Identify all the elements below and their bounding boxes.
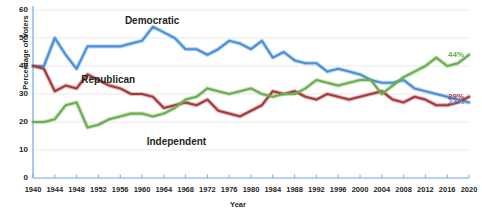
series-label-democratic: Democratic — [125, 15, 179, 26]
end-value-label-democratic: 27% — [448, 97, 464, 106]
y-axis-tick-10: 10 — [4, 145, 28, 154]
y-axis-tick-60: 60 — [4, 5, 28, 14]
y-axis-tick-40: 40 — [4, 61, 28, 70]
y-axis-tick-30: 30 — [4, 89, 28, 98]
y-axis-tick-0: 0 — [4, 173, 28, 182]
series-label-republican: Republican — [81, 74, 135, 85]
series-label-independent: Independent — [147, 136, 206, 147]
x-axis-tick-2020: 2020 — [454, 185, 482, 194]
y-axis-tick-50: 50 — [4, 33, 28, 42]
x-axis-title: Year — [0, 200, 476, 209]
end-value-label-independent: 44% — [448, 50, 464, 59]
y-axis-tick-20: 20 — [4, 117, 28, 126]
